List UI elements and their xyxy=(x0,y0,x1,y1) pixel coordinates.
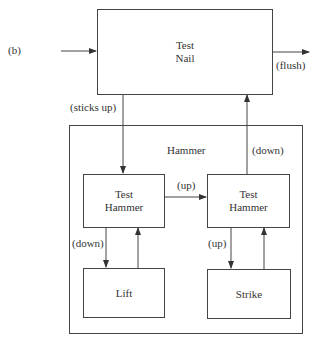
test-nail-line1: Test xyxy=(176,39,194,52)
lift-box: Lift xyxy=(83,268,165,318)
test-hammer-right-line2: Hammer xyxy=(229,201,267,214)
hammer-group-title: Hammer xyxy=(167,144,205,157)
test-hammer-left-line1: Test xyxy=(115,188,133,201)
right-up-label: (up) xyxy=(208,237,226,250)
test-nail-line2: Nail xyxy=(176,52,195,65)
flush-label: (flush) xyxy=(276,59,305,72)
lift-label: Lift xyxy=(116,287,133,300)
left-down-label: (down) xyxy=(72,237,104,250)
down-return-label: (down) xyxy=(252,144,284,157)
panel-label: (b) xyxy=(8,44,21,57)
test-hammer-left-box: Test Hammer xyxy=(83,174,165,228)
strike-label: Strike xyxy=(236,288,262,301)
test-hammer-right-line1: Test xyxy=(239,188,257,201)
test-nail-box: Test Nail xyxy=(97,9,273,95)
strike-box: Strike xyxy=(207,269,291,319)
test-hammer-right-box: Test Hammer xyxy=(207,174,290,228)
sticks-up-label: (sticks up) xyxy=(70,101,116,114)
test-hammer-left-line2: Hammer xyxy=(105,201,143,214)
up-between-label: (up) xyxy=(177,179,195,192)
